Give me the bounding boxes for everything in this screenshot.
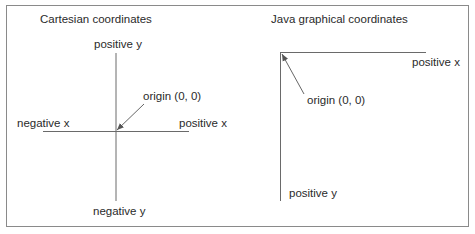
cartesian-negative-x-label: negative x bbox=[17, 117, 69, 130]
java-origin-arrow bbox=[282, 54, 304, 94]
cartesian-title: Cartesian coordinates bbox=[40, 13, 152, 26]
java-origin-label: origin (0, 0) bbox=[307, 94, 365, 107]
cartesian-origin-arrow bbox=[117, 104, 144, 130]
cartesian-positive-y-label: positive y bbox=[94, 38, 142, 51]
axes-drawing bbox=[0, 0, 475, 234]
java-positive-x-label: positive x bbox=[412, 56, 460, 69]
cartesian-origin-label: origin (0, 0) bbox=[143, 90, 201, 103]
cartesian-positive-x-label: positive x bbox=[179, 117, 227, 130]
cartesian-negative-y-label: negative y bbox=[93, 205, 145, 218]
java-title: Java graphical coordinates bbox=[271, 13, 408, 26]
java-positive-y-label: positive y bbox=[289, 187, 337, 200]
